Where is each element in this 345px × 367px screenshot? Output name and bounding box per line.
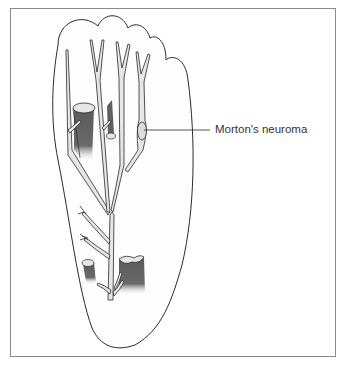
- neuroma-swelling: [138, 122, 147, 140]
- label-mortons-neuroma: Morton's neuroma: [215, 123, 307, 135]
- muscle-stump-upper-left: [73, 103, 95, 162]
- muscle-stump-lower-right: [119, 256, 145, 295]
- foot-diagram: [0, 0, 345, 367]
